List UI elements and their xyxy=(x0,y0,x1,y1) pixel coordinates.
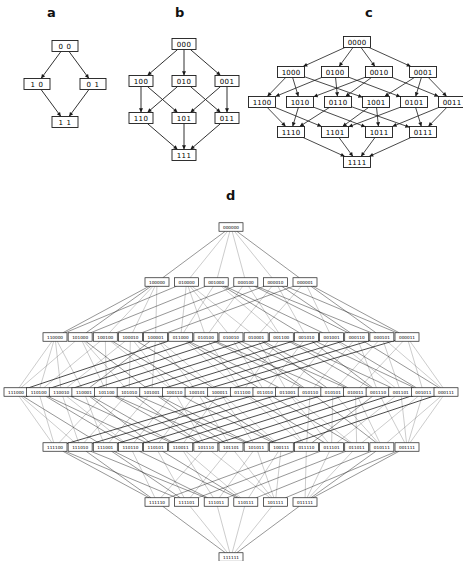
lattice-node: 0001 xyxy=(410,67,437,78)
lattice-node: 001001 xyxy=(320,333,344,342)
lattice-edge xyxy=(217,231,230,278)
lattice-edge xyxy=(305,77,363,97)
lattice-edge xyxy=(332,396,333,443)
lattice-node: 000 xyxy=(172,39,196,50)
node-label: 000000 xyxy=(223,225,239,230)
lattice-node: 110 xyxy=(129,113,153,124)
node-label: 1110 xyxy=(282,129,301,137)
node-label: 100110 xyxy=(166,390,182,395)
lattice-node: 001011 xyxy=(411,388,435,397)
lattice-edge xyxy=(309,451,353,498)
lattice-edge xyxy=(192,286,251,333)
lattice-edge xyxy=(91,286,206,333)
lattice-node: 100110 xyxy=(162,388,186,397)
lattice-node: 011000 xyxy=(169,333,193,342)
panel-label-b: b xyxy=(175,5,184,20)
edge-arrowhead xyxy=(349,152,353,157)
lattice-edge xyxy=(41,52,61,79)
node-label: 011001 xyxy=(280,390,296,395)
node-label: 001010 xyxy=(298,335,314,340)
edge-arrowhead xyxy=(182,145,186,149)
lattice-edge xyxy=(82,341,104,388)
node-label: 101000 xyxy=(72,335,88,340)
lattice-node: 1 1 xyxy=(52,117,78,128)
lattice-node: 001100 xyxy=(269,333,293,342)
lattice-edge xyxy=(249,396,324,443)
lattice-edge xyxy=(63,451,149,498)
node-label: 0 0 xyxy=(59,43,72,51)
lattice-node: 100001 xyxy=(144,333,168,342)
lattice-node: 1010 xyxy=(287,97,314,108)
panel-label-a: a xyxy=(47,5,56,20)
lattice-edge xyxy=(168,396,321,444)
node-label: 011100 xyxy=(234,390,250,395)
lattice-node: 111101 xyxy=(175,498,199,507)
lattice-node: 001101 xyxy=(389,388,413,397)
node-label: 0110 xyxy=(329,99,348,107)
lattice-node: 111110 xyxy=(145,498,169,507)
lattice-node: 110110 xyxy=(118,443,142,452)
node-layer: 0 01 00 11 1 xyxy=(24,41,106,128)
node-label: 110101 xyxy=(148,445,164,450)
lattice-node: 1110 xyxy=(278,127,305,138)
lattice-edge xyxy=(116,286,235,333)
lattice-node: 101 xyxy=(172,113,196,124)
lattice-edge xyxy=(105,341,106,388)
lattice-edge xyxy=(383,341,399,388)
node-label: 001110 xyxy=(370,390,386,395)
lattice-edge xyxy=(190,506,228,553)
lattice-edge xyxy=(314,107,366,127)
edge-arrowhead xyxy=(69,112,73,117)
lattice-node: 010011 xyxy=(343,388,367,397)
lattice-edge xyxy=(387,341,441,388)
lattice-edge xyxy=(349,77,401,97)
node-label: 1 0 xyxy=(31,81,44,89)
node-label: 101011 xyxy=(248,445,264,450)
node-label: 0111 xyxy=(414,129,433,137)
node-label: 101 xyxy=(177,115,192,123)
lattice-node: 110001 xyxy=(72,388,96,397)
lattice-edge xyxy=(219,451,253,498)
node-label: 101010 xyxy=(121,390,137,395)
node-label: 111010 xyxy=(72,445,88,450)
lattice-edge xyxy=(352,107,410,127)
lattice-node: 011 xyxy=(215,113,239,124)
lattice-edge xyxy=(112,341,190,388)
node-label: 0001 xyxy=(414,69,433,77)
edge-arrowhead xyxy=(405,124,410,128)
lattice-edge xyxy=(256,451,371,498)
lattice-edge xyxy=(303,48,345,67)
node-label: 1 1 xyxy=(59,119,72,127)
lattice-edge xyxy=(117,396,275,444)
edge-arrowhead xyxy=(85,74,89,79)
node-label: 100 xyxy=(134,78,149,86)
node-label: 000 xyxy=(177,41,192,49)
node-label: 100111 xyxy=(273,445,289,450)
node-label: 100100 xyxy=(97,335,113,340)
lattice-node: 101100 xyxy=(95,388,119,397)
lattice-edge xyxy=(218,396,366,443)
lattice-edge xyxy=(286,286,397,333)
lattice-node: 0 1 xyxy=(80,79,106,90)
node-label: 011101 xyxy=(324,445,340,450)
edge-arrowhead xyxy=(41,74,45,79)
lattice-node: 0 0 xyxy=(52,41,78,52)
lattice-node: 100011 xyxy=(208,388,232,397)
lattice-edge xyxy=(114,451,208,498)
lattice-node: 110100 xyxy=(27,388,51,397)
lattice-node: 000000 xyxy=(219,223,243,232)
lattice-edge xyxy=(243,396,389,443)
panel-a-lattice-dim2: 0 01 00 11 1 xyxy=(0,28,130,158)
lattice-edge xyxy=(141,341,294,389)
edge-arrowhead xyxy=(139,108,143,112)
lattice-node: 0110 xyxy=(325,97,352,108)
lattice-edge xyxy=(21,341,75,388)
lattice-edge xyxy=(232,341,395,389)
node-label: 001001 xyxy=(324,335,340,340)
node-label: 111000 xyxy=(8,390,24,395)
edge-layer xyxy=(139,50,229,150)
lattice-node: 010010 xyxy=(219,333,243,342)
lattice-node: 100101 xyxy=(185,388,209,397)
node-label: 100101 xyxy=(189,390,205,395)
panel-label-d: d xyxy=(226,188,235,203)
